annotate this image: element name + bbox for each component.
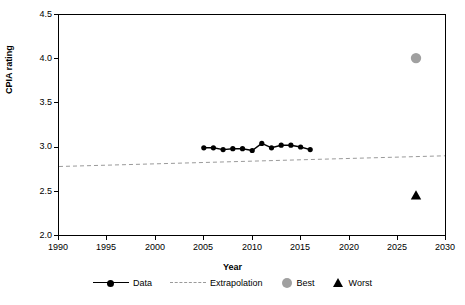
x-tick-label-2010: 2010 xyxy=(232,242,272,252)
legend-label-extrapolation: Extrapolation xyxy=(210,278,263,288)
y-tick-label-4-5: 4.5 xyxy=(28,9,52,19)
legend-line-marker-icon xyxy=(93,278,129,288)
chart-container: CPIA rating 4.5 4.0 3.5 3.0 2.5 2.0 xyxy=(0,0,465,305)
data-point-2006 xyxy=(211,145,216,150)
legend-item-data: Data xyxy=(93,278,152,288)
legend-black-triangle-icon xyxy=(333,278,345,288)
x-tick-mark xyxy=(397,236,398,240)
data-point-2007 xyxy=(221,147,226,152)
legend-label-best: Best xyxy=(297,278,315,288)
x-axis-title: Year xyxy=(0,262,465,272)
y-tick-label-4-0: 4.0 xyxy=(28,53,52,63)
x-tick-label-2015: 2015 xyxy=(280,242,320,252)
x-tick-label-2030: 2030 xyxy=(425,242,465,252)
x-tick-mark xyxy=(106,236,107,240)
extrapolation-line xyxy=(59,156,445,167)
y-tick-label-2-0: 2.0 xyxy=(28,230,52,240)
x-tick-label-1995: 1995 xyxy=(86,242,126,252)
legend-grey-circle-icon xyxy=(281,278,293,288)
data-point-2015 xyxy=(298,144,303,149)
legend-label-worst: Worst xyxy=(349,278,372,288)
x-tick-label-2000: 2000 xyxy=(135,242,175,252)
data-point-2014 xyxy=(288,143,293,148)
y-tick-label-3-0: 3.0 xyxy=(28,141,52,151)
x-tick-mark xyxy=(300,236,301,240)
plot-area xyxy=(58,14,446,236)
x-tick-label-2005: 2005 xyxy=(183,242,223,252)
data-point-2012 xyxy=(269,145,274,150)
worst-marker xyxy=(411,190,421,199)
x-tick-label-2025: 2025 xyxy=(377,242,417,252)
data-point-2013 xyxy=(279,143,284,148)
x-tick-mark xyxy=(445,236,446,240)
legend-item-worst: Worst xyxy=(333,278,372,288)
data-point-2010 xyxy=(250,148,255,153)
x-tick-mark xyxy=(58,236,59,240)
y-tick-label-2-5: 2.5 xyxy=(28,186,52,196)
x-tick-mark xyxy=(203,236,204,240)
legend-label-data: Data xyxy=(133,278,152,288)
data-point-2005 xyxy=(201,145,206,150)
chart-legend: Data Extrapolation Best Worst xyxy=(0,278,465,288)
legend-item-best: Best xyxy=(281,278,315,288)
data-point-2011 xyxy=(259,141,264,146)
best-marker xyxy=(411,53,421,63)
data-point-2009 xyxy=(240,146,245,151)
data-series-line xyxy=(204,143,310,150)
x-tick-mark xyxy=(349,236,350,240)
legend-dashed-line-icon xyxy=(170,278,206,288)
y-axis-title: CPIA rating xyxy=(4,45,14,94)
x-tick-label-1990: 1990 xyxy=(38,242,78,252)
x-tick-mark xyxy=(252,236,253,240)
x-tick-label-2020: 2020 xyxy=(329,242,369,252)
y-tick-label-3-5: 3.5 xyxy=(28,97,52,107)
x-tick-mark xyxy=(155,236,156,240)
legend-item-extrapolation: Extrapolation xyxy=(170,278,263,288)
data-point-2016 xyxy=(308,147,313,152)
data-point-2008 xyxy=(230,146,235,151)
plot-svg xyxy=(59,15,445,235)
